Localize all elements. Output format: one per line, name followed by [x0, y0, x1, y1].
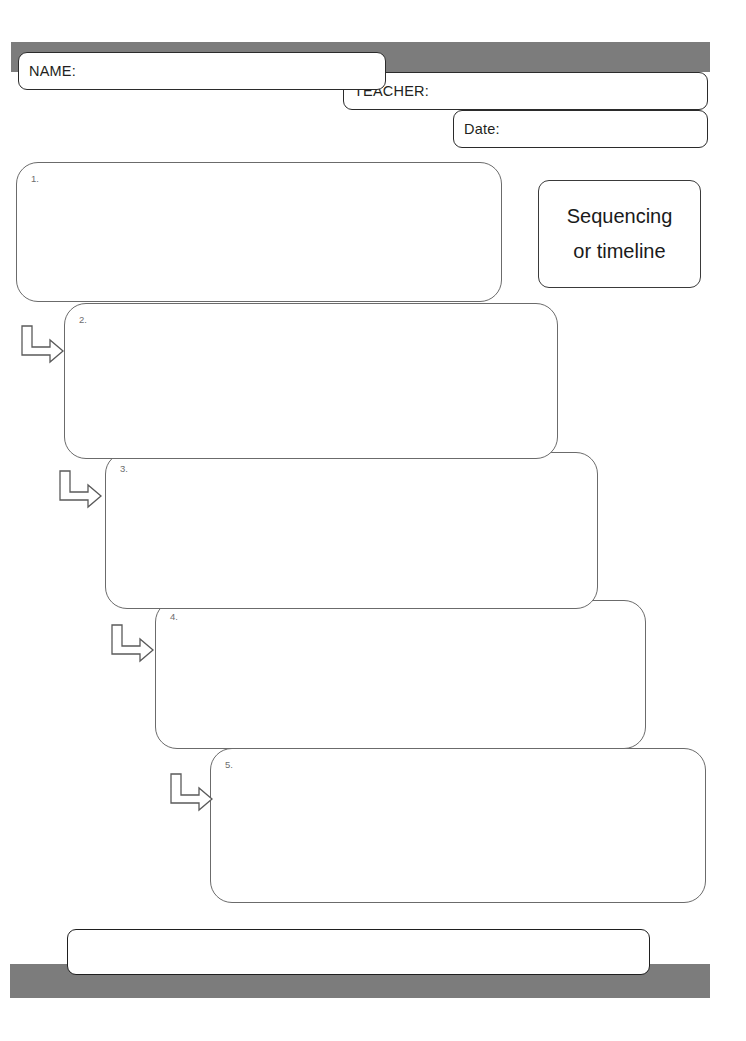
- elbow-arrow-icon: [108, 622, 156, 664]
- teacher-field[interactable]: TEACHER:: [343, 72, 708, 110]
- sequence-step-box-3[interactable]: 3.: [105, 452, 598, 609]
- title-line-2: or timeline: [573, 234, 665, 269]
- step-number-4: 4.: [170, 611, 178, 622]
- sequence-step-box-4[interactable]: 4.: [155, 600, 646, 749]
- footer-answer-box[interactable]: [67, 929, 650, 975]
- worksheet-title-card: Sequencing or timeline: [538, 180, 701, 288]
- elbow-arrow-icon: [18, 323, 66, 365]
- worksheet-page: NAME: TEACHER: Date: Sequencing or timel…: [0, 0, 746, 1041]
- elbow-arrow-icon: [56, 468, 104, 510]
- step-number-1: 1.: [31, 173, 39, 184]
- date-field-label: Date:: [464, 121, 500, 137]
- sequence-step-box-1[interactable]: 1.: [16, 162, 502, 302]
- sequence-step-box-2[interactable]: 2.: [64, 303, 558, 459]
- step-number-5: 5.: [225, 759, 233, 770]
- date-field[interactable]: Date:: [453, 110, 708, 148]
- sequence-step-box-5[interactable]: 5.: [210, 748, 706, 903]
- name-field[interactable]: NAME:: [18, 52, 386, 90]
- elbow-arrow-icon: [167, 771, 215, 813]
- step-number-2: 2.: [79, 314, 87, 325]
- step-number-3: 3.: [120, 463, 128, 474]
- name-field-label: NAME:: [29, 63, 76, 79]
- title-line-1: Sequencing: [567, 199, 673, 234]
